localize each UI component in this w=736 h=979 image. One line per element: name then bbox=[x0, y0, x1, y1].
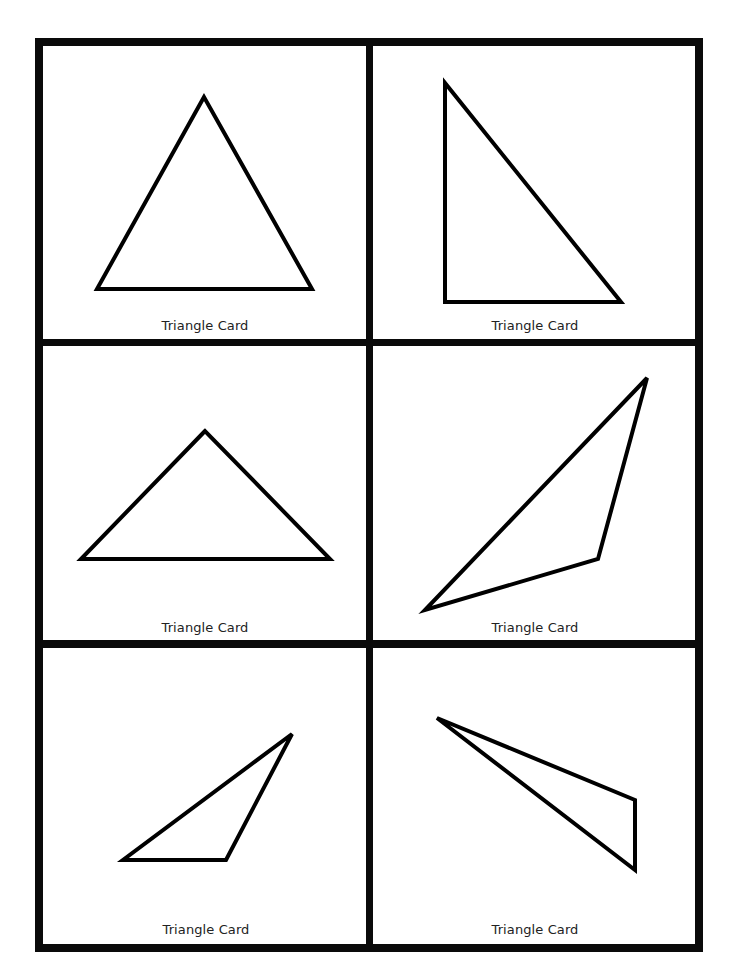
triangle-scalene-small-icon bbox=[123, 734, 292, 860]
card-label-5: Triangle Card bbox=[163, 923, 250, 937]
triangle-shapes bbox=[0, 0, 736, 979]
triangle-scalene-narrow-icon bbox=[437, 718, 635, 870]
triangle-right-icon bbox=[445, 83, 621, 302]
triangle-equilateral-icon bbox=[97, 97, 312, 289]
triangle-card-sheet: Triangle Card Triangle Card Triangle Car… bbox=[0, 0, 736, 979]
card-label-4: Triangle Card bbox=[492, 621, 579, 635]
card-label-2: Triangle Card bbox=[492, 319, 579, 333]
card-label-1: Triangle Card bbox=[162, 319, 249, 333]
card-label-6: Triangle Card bbox=[492, 923, 579, 937]
triangle-isosceles-obtuse-icon bbox=[81, 431, 330, 559]
triangle-scalene-obtuse-icon bbox=[425, 378, 647, 610]
card-label-3: Triangle Card bbox=[162, 621, 249, 635]
